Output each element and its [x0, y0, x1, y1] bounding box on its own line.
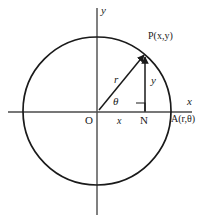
angle-theta-label: θ [113, 96, 118, 107]
origin-label: O [85, 115, 93, 126]
point-n-label: N [140, 115, 148, 126]
radius-segment-op [99, 55, 144, 110]
geometry-figure: y x P(x,y) A(r,θ) O N r y x θ [0, 0, 217, 219]
point-a-label: A(r,θ) [171, 114, 195, 124]
y-axis-label: y [101, 5, 106, 16]
radius-length-label: r [114, 74, 118, 85]
figure-canvas [0, 0, 217, 219]
right-angle-marker [136, 103, 145, 112]
horizontal-leg-label: x [117, 116, 121, 126]
vertical-leg-label: y [151, 75, 156, 86]
point-p-label: P(x,y) [148, 31, 173, 41]
x-axis-label: x [187, 96, 192, 107]
